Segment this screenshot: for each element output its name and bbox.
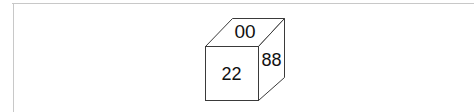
front-face-label: 22: [221, 64, 241, 84]
top-face-label: 00: [234, 21, 255, 42]
right-face-label: 88: [261, 50, 281, 70]
diagram-canvas: 00 22 88: [0, 0, 474, 112]
